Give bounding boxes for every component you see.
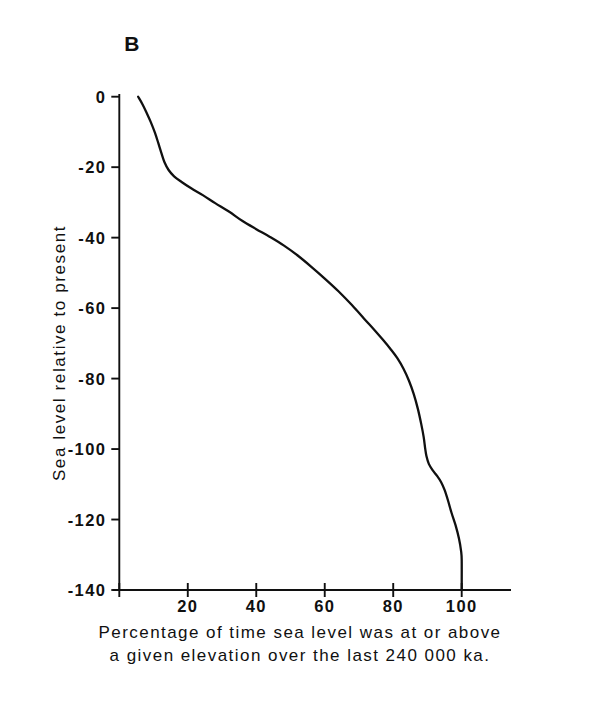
figure-container: B 0-20-40-60-80-100-120-140 20406080100 … xyxy=(0,0,600,704)
y-axis-title: Sea level relative to present xyxy=(50,143,70,563)
x-axis-tick-label: 20 xyxy=(177,597,198,616)
x-axis-title-line-2: a given elevation over the last 240 000 … xyxy=(0,644,600,667)
y-axis-ticks xyxy=(111,97,119,590)
x-axis-tick-label: 60 xyxy=(314,597,335,616)
y-axis-tick-label: 0 xyxy=(14,87,106,106)
x-axis-tick-label: 100 xyxy=(446,597,478,616)
data-series-line xyxy=(138,97,462,590)
y-axis-tick-label: -140 xyxy=(14,581,106,600)
x-axis-title: Percentage of time sea level was at or a… xyxy=(0,621,600,667)
x-axis-tick-label: 80 xyxy=(383,597,404,616)
x-axis-tick-label: 40 xyxy=(246,597,267,616)
x-axis-title-line-1: Percentage of time sea level was at or a… xyxy=(0,621,600,644)
